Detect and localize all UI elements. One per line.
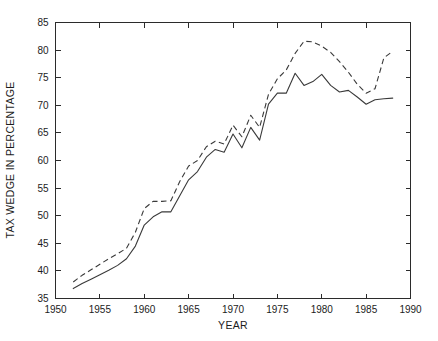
y-tick-label: 85 — [37, 17, 49, 28]
y-tick-label: 60 — [37, 155, 49, 166]
x-tick-label: 1955 — [89, 304, 112, 315]
y-tick-label: 45 — [37, 238, 49, 249]
x-tick-label: 1960 — [133, 304, 156, 315]
series-line-solid-series — [73, 73, 393, 288]
x-tick-label: 1970 — [222, 304, 245, 315]
y-tick-label: 75 — [37, 72, 49, 83]
y-axis-title: TAX WEDGE IN PERCENTAGE — [4, 81, 16, 238]
x-tick-label: 1975 — [266, 304, 289, 315]
x-tick-label: 1980 — [311, 304, 334, 315]
plot-frame — [56, 23, 411, 299]
y-tick-label: 35 — [37, 293, 49, 304]
x-axis-title: YEAR — [218, 319, 248, 331]
y-tick-label: 65 — [37, 127, 49, 138]
x-tick-label: 1985 — [355, 304, 378, 315]
y-tick-label: 80 — [37, 45, 49, 56]
x-tick-label: 1990 — [399, 304, 422, 315]
x-tick-label: 1950 — [44, 304, 67, 315]
y-axis-ticks: 3540455055606570758085 — [37, 17, 410, 304]
y-tick-label: 40 — [37, 265, 49, 276]
series-line-dashed-series — [73, 41, 393, 282]
chart-figure: 3540455055606570758085 19501955196019651… — [0, 0, 438, 341]
y-tick-label: 70 — [37, 100, 49, 111]
tax-wedge-line-chart: 3540455055606570758085 19501955196019651… — [0, 0, 438, 341]
x-axis-ticks: 195019551960196519701975198019851990 — [44, 23, 422, 315]
y-tick-label: 50 — [37, 210, 49, 221]
data-series-group — [73, 41, 393, 288]
y-tick-label: 55 — [37, 183, 49, 194]
x-tick-label: 1965 — [178, 304, 201, 315]
